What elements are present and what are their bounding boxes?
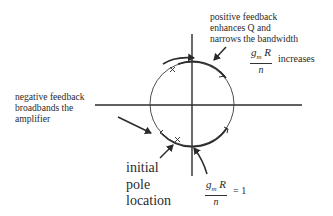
initial-pole-line-3: location — [126, 193, 171, 210]
direction-arrow-lower-left — [160, 130, 164, 135]
locus-arc-upper-right — [178, 61, 226, 78]
negative-feedback-line-3: amplifier — [15, 113, 85, 124]
x-mark-bottom — [175, 137, 180, 142]
positive-feedback-line-3: narrows the bandwidth — [210, 33, 298, 44]
unity-text: = 1 — [233, 185, 246, 196]
positive-feedback-line-2: enhances Q and — [210, 22, 298, 33]
negative-feedback-line-2: broadbands the — [15, 102, 85, 113]
negative-feedback-label: negative feedback broadbands the amplifi… — [15, 91, 85, 124]
initial-pole-line-2: pole — [126, 177, 171, 194]
unity-fraction: gm R n — [205, 178, 227, 207]
positive-feedback-arrow — [214, 47, 226, 60]
positive-feedback-label: positive feedback enhances Q and narrows… — [210, 11, 298, 44]
negative-feedback-line-1: negative feedback — [15, 91, 85, 102]
formula-n: n — [259, 64, 264, 75]
initial-pole-arrow — [160, 145, 173, 158]
x-mark-upper-left — [170, 67, 175, 72]
root-locus-diagram: positive feedback enhances Q and narrows… — [0, 0, 333, 216]
formula-R: R — [217, 178, 226, 190]
formula-R: R — [262, 46, 271, 58]
increases-fraction: gm R n — [250, 46, 272, 75]
initial-pole-label: initial pole location — [126, 160, 171, 210]
unity-arrow — [194, 148, 207, 174]
formula-n: n — [214, 196, 219, 207]
positive-feedback-line-1: positive feedback — [210, 11, 298, 22]
initial-pole-line-1: initial — [126, 160, 171, 177]
negative-feedback-arrow — [118, 117, 151, 133]
increases-text: increases — [278, 53, 315, 64]
